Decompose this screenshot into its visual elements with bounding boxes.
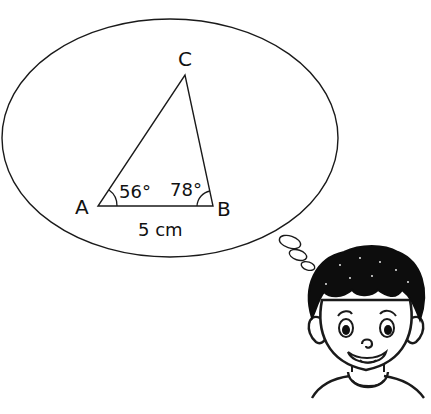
vertex-label-a: A bbox=[75, 195, 89, 219]
vertex-label-b: B bbox=[217, 197, 231, 221]
vertex-label-c: C bbox=[178, 47, 192, 71]
boy-illustration bbox=[309, 246, 424, 398]
thought-trail bbox=[278, 233, 316, 272]
side-label-ab: 5 cm bbox=[138, 219, 183, 240]
angle-label-b: 78° bbox=[170, 179, 202, 200]
angle-label-a: 56° bbox=[119, 181, 151, 202]
angle-arc-a bbox=[109, 190, 117, 206]
diagram-canvas: C A B 56° 78° 5 cm bbox=[0, 0, 431, 414]
